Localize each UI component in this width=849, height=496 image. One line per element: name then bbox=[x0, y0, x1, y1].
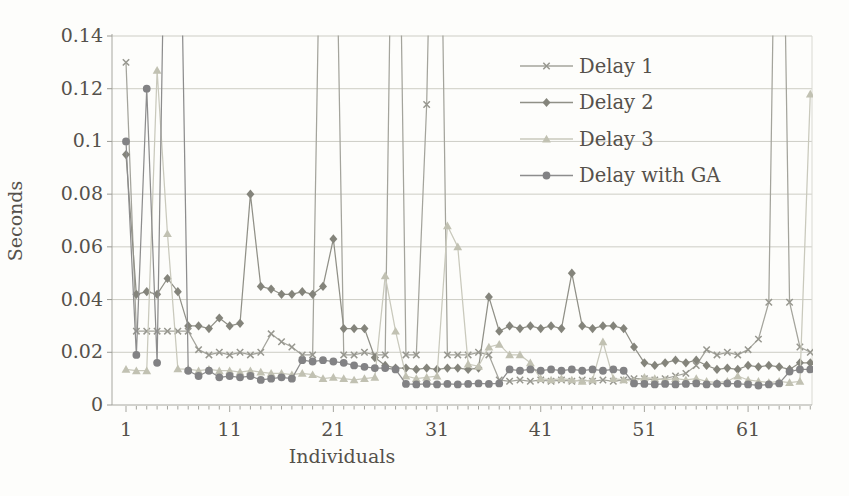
diamond-marker bbox=[298, 287, 306, 296]
triangle-marker bbox=[391, 327, 400, 335]
diamond-marker bbox=[443, 364, 451, 373]
x-tick-label: 31 bbox=[425, 418, 449, 440]
circle-marker bbox=[734, 380, 742, 388]
triangle-marker bbox=[298, 369, 307, 377]
diamond-marker bbox=[506, 321, 514, 330]
diamond-marker bbox=[723, 364, 731, 373]
circle-marker bbox=[226, 372, 234, 380]
x-tick-label: 21 bbox=[321, 418, 345, 440]
circle-marker bbox=[143, 85, 151, 93]
circle-marker bbox=[278, 373, 286, 381]
circle-marker bbox=[558, 367, 566, 375]
diamond-marker bbox=[682, 358, 690, 367]
triangle-marker bbox=[433, 372, 442, 380]
diamond-marker bbox=[557, 324, 565, 333]
diamond-marker bbox=[516, 324, 524, 333]
circle-marker bbox=[288, 375, 296, 383]
circle-marker bbox=[340, 359, 348, 367]
y-tick-label: 0.04 bbox=[61, 288, 103, 310]
circle-marker bbox=[692, 379, 700, 387]
x-tick-label: 1 bbox=[120, 418, 132, 440]
diamond-marker bbox=[257, 282, 265, 291]
triangle-marker bbox=[163, 229, 172, 237]
circle-marker bbox=[329, 358, 337, 366]
series-line-delay-3 bbox=[126, 70, 810, 382]
circle-marker bbox=[215, 373, 223, 381]
triangle-marker bbox=[402, 372, 411, 380]
circle-marker bbox=[236, 373, 244, 381]
triangle-marker bbox=[806, 90, 815, 98]
y-tick-label: 0.14 bbox=[61, 24, 103, 46]
circle-marker bbox=[786, 368, 794, 376]
diamond-marker bbox=[672, 356, 680, 365]
diamond-marker bbox=[195, 321, 203, 330]
diamond-marker bbox=[350, 324, 358, 333]
circle-marker bbox=[775, 379, 783, 387]
circle-marker bbox=[713, 380, 721, 388]
triangle-marker bbox=[640, 373, 649, 381]
x-tick-label: 41 bbox=[529, 418, 553, 440]
series-delay-3 bbox=[122, 66, 815, 386]
circle-marker bbox=[350, 362, 358, 370]
circle-marker bbox=[423, 380, 431, 388]
circle-marker bbox=[516, 367, 524, 375]
diamond-marker bbox=[578, 321, 586, 330]
circle-marker bbox=[765, 381, 773, 389]
circle-marker bbox=[319, 356, 327, 364]
circle-marker bbox=[589, 366, 597, 374]
diamond-marker bbox=[754, 362, 762, 371]
circle-marker bbox=[609, 366, 617, 374]
circle-marker bbox=[723, 379, 731, 387]
circle-marker bbox=[796, 366, 804, 374]
triangle-marker bbox=[557, 374, 566, 382]
circle-marker bbox=[257, 376, 265, 384]
diamond-marker bbox=[267, 284, 275, 293]
series-delay-with-ga bbox=[122, 0, 814, 389]
circle-marker bbox=[661, 380, 669, 388]
diamond-marker bbox=[288, 290, 296, 299]
triangle-marker bbox=[464, 360, 473, 368]
circle-marker bbox=[599, 367, 607, 375]
diamond-marker bbox=[547, 321, 555, 330]
circle-marker bbox=[651, 381, 659, 389]
circle-marker bbox=[371, 364, 379, 372]
circle-marker bbox=[267, 375, 275, 383]
x-marker bbox=[278, 339, 284, 345]
circle-marker bbox=[444, 380, 452, 388]
circle-marker bbox=[506, 366, 514, 374]
circle-marker bbox=[755, 382, 763, 390]
y-tick-label: 0.02 bbox=[61, 340, 103, 362]
circle-marker bbox=[402, 380, 410, 388]
circle-marker bbox=[537, 367, 545, 375]
diamond-marker bbox=[537, 324, 545, 333]
circle-marker bbox=[641, 380, 649, 388]
circle-marker bbox=[630, 379, 638, 387]
diamond-marker bbox=[620, 324, 628, 333]
legend-label: Delay 2 bbox=[579, 91, 654, 114]
triangle-marker bbox=[122, 365, 131, 373]
y-tick-label: 0.12 bbox=[61, 77, 103, 99]
diamond-marker bbox=[485, 292, 493, 301]
circle-marker bbox=[309, 358, 317, 366]
circle-marker bbox=[568, 366, 576, 374]
triangle-marker bbox=[796, 377, 805, 385]
legend: Delay 1Delay 2Delay 3Delay with GA bbox=[520, 55, 721, 188]
triangle-marker bbox=[370, 373, 379, 381]
series-delay-1 bbox=[123, 0, 814, 384]
circle-marker bbox=[578, 367, 586, 375]
circle-marker bbox=[620, 367, 628, 375]
diamond-marker bbox=[423, 364, 431, 373]
circle-marker bbox=[475, 379, 483, 387]
diamond-marker bbox=[360, 324, 368, 333]
circle-marker bbox=[412, 381, 420, 389]
diamond-marker bbox=[309, 290, 317, 299]
diamond-marker bbox=[713, 365, 721, 374]
circle-marker bbox=[195, 372, 203, 380]
x-tick-label: 11 bbox=[218, 418, 242, 440]
circle-marker bbox=[433, 381, 441, 389]
x-tick-label: 51 bbox=[632, 418, 656, 440]
triangle-marker bbox=[599, 337, 608, 345]
circle-marker bbox=[682, 380, 690, 388]
legend-label: Delay 3 bbox=[579, 128, 654, 151]
circle-marker bbox=[744, 381, 752, 389]
